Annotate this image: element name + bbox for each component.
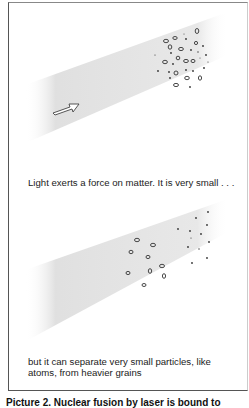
figure-caption: Picture 2. Nuclear fusion by laser is bo… xyxy=(6,397,221,408)
top-light-beam xyxy=(25,13,228,142)
caption-label: Picture 2. xyxy=(6,397,51,408)
caption-text: Nuclear fusion by laser is bound to xyxy=(54,397,221,408)
bottom-light-beam xyxy=(25,200,228,340)
bottom-panel-text-line2: atoms, from heavier grains xyxy=(28,367,238,378)
bottom-panel-text-line1: but it can separate very small particles… xyxy=(28,356,238,367)
bottom-panel-text: but it can separate very small particles… xyxy=(28,356,238,378)
top-panel-text: Light exerts a force on matter. It is ve… xyxy=(28,177,234,188)
